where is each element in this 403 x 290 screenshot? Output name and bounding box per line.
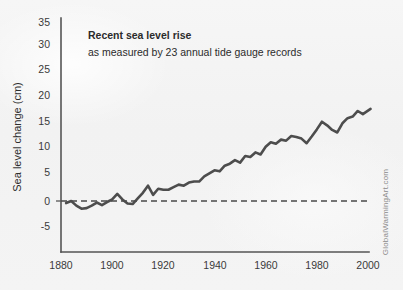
x-tick-label: 1880 — [49, 259, 73, 271]
x-axis-tick-labels: 1880 1900 1920 1940 1960 1980 2000 — [49, 259, 380, 271]
x-tick-label: 1920 — [151, 259, 175, 271]
y-tick-label: 10 — [38, 140, 50, 152]
x-tick-label: 1960 — [254, 259, 278, 271]
chart-subtitle: as measured by 23 annual tide gauge reco… — [88, 46, 302, 58]
y-tick-label: 35 — [38, 16, 50, 28]
y-tick-label: 5 — [44, 166, 50, 178]
y-tick-label: 15 — [38, 115, 50, 127]
y-tick-label: 20 — [38, 89, 50, 101]
chart-title: Recent sea level rise — [88, 29, 191, 41]
y-tick-label: 30 — [38, 38, 50, 50]
watermark-label: GlobalWarmingArt.com — [381, 169, 390, 256]
x-tick-label: 1940 — [203, 259, 227, 271]
x-tick-label: 1980 — [305, 259, 329, 271]
y-axis-tick-labels: 35 30 25 20 15 10 5 0 -5 — [38, 16, 50, 232]
sea-level-rise-chart: Sea level change (cm) 35 30 25 20 15 10 … — [0, 0, 403, 290]
x-tick-label: 2000 — [356, 259, 380, 271]
y-tick-label: 25 — [38, 63, 50, 75]
chart-page: Sea level change (cm) 35 30 25 20 15 10 … — [0, 0, 403, 290]
y-tick-label: -5 — [41, 220, 50, 232]
sea-level-data-line — [66, 109, 370, 209]
x-tick-label: 1900 — [100, 259, 124, 271]
y-axis-title: Sea level change (cm) — [11, 82, 23, 191]
y-tick-label: 0 — [44, 195, 50, 207]
